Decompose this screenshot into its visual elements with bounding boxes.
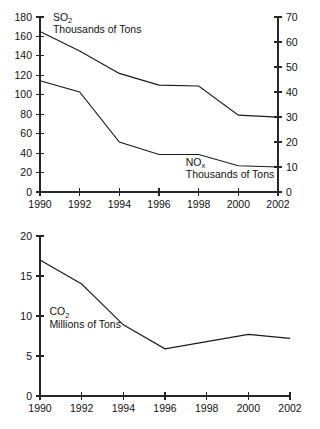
x-tick-label: 1992 xyxy=(68,198,92,210)
x-tick-label: 1992 xyxy=(70,402,94,414)
series-annotation-unit: Millions of Tons xyxy=(49,318,121,330)
y-tick-label-right: 30 xyxy=(286,111,298,123)
x-tick-label: 2000 xyxy=(227,198,251,210)
x-tick-label: 1998 xyxy=(195,402,219,414)
series-annotation-unit: Thousands of Tons xyxy=(53,23,142,35)
chart-so2-nox-canvas: 0204060801001201401601800102030405060701… xyxy=(0,0,320,215)
y-tick-label-left: 40 xyxy=(20,147,32,159)
y-tick-label-left: 120 xyxy=(14,69,32,81)
series-annotation-unit: Thousands of Tons xyxy=(186,168,275,180)
chart-page: 0204060801001201401601800102030405060701… xyxy=(0,0,320,429)
y-tick-label-right: 60 xyxy=(286,36,298,48)
series-line-so2 xyxy=(40,32,278,118)
series-annotation-nox: NOxThousands of Tons xyxy=(186,156,275,181)
y-tick-label: 15 xyxy=(20,270,32,282)
y-tick-label-right: 0 xyxy=(286,186,292,198)
y-tick-label-right: 20 xyxy=(286,136,298,148)
series-line-nox xyxy=(40,81,278,167)
x-tick-label: 2000 xyxy=(237,402,261,414)
chart-co2-canvas: 051015201990199219941996199820002002CO2M… xyxy=(0,215,320,429)
y-tick-label-left: 80 xyxy=(20,108,32,120)
y-tick-label-left: 160 xyxy=(14,30,32,42)
x-tick-label: 2002 xyxy=(266,198,290,210)
y-tick-label: 5 xyxy=(26,350,32,362)
x-tick-label: 2002 xyxy=(278,402,302,414)
x-tick-label: 1990 xyxy=(28,198,52,210)
x-tick-label: 1990 xyxy=(28,402,52,414)
y-tick-label-right: 70 xyxy=(286,11,298,23)
x-tick-label: 1996 xyxy=(153,402,177,414)
y-tick-label: 0 xyxy=(26,390,32,402)
x-tick-label: 1996 xyxy=(147,198,171,210)
y-tick-label-right: 50 xyxy=(286,61,298,73)
y-tick-label-left: 180 xyxy=(14,11,32,23)
y-tick-label: 20 xyxy=(20,230,32,242)
series-line-co2 xyxy=(40,260,290,349)
chart-so2-nox: 0204060801001201401601800102030405060701… xyxy=(0,0,320,215)
series-annotation-so2: SO2Thousands of Tons xyxy=(53,11,142,36)
x-tick-label: 1994 xyxy=(108,198,132,210)
chart-co2: 051015201990199219941996199820002002CO2M… xyxy=(0,215,320,429)
y-tick-label-right: 40 xyxy=(286,86,298,98)
y-tick-label-left: 100 xyxy=(14,88,32,100)
y-tick-label-left: 140 xyxy=(14,49,32,61)
y-tick-label: 10 xyxy=(20,310,32,322)
y-tick-label-left: 0 xyxy=(26,186,32,198)
x-tick-label: 1998 xyxy=(187,198,211,210)
y-tick-label-left: 20 xyxy=(20,166,32,178)
y-tick-label-right: 10 xyxy=(286,161,298,173)
y-tick-label-left: 60 xyxy=(20,127,32,139)
series-annotation-co2: CO2Millions of Tons xyxy=(49,305,121,330)
x-tick-label: 1994 xyxy=(112,402,136,414)
